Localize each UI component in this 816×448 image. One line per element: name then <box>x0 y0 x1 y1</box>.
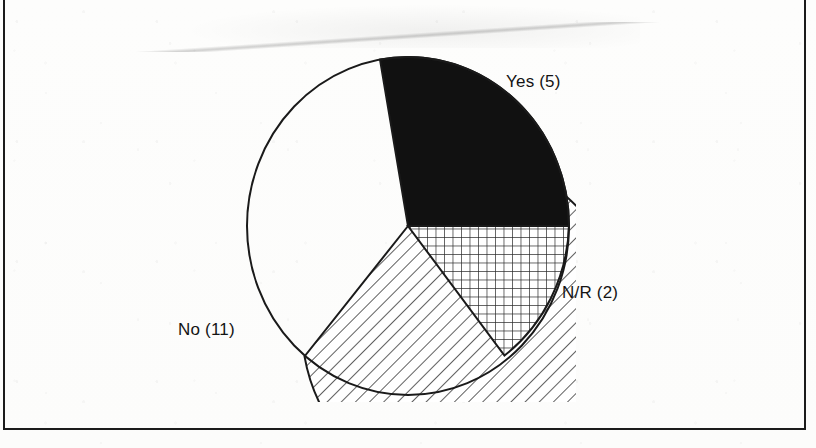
scanned-page: Yes (5) N/R (2) No (11) <box>0 0 816 448</box>
pie-chart-svg <box>240 50 576 402</box>
pie-chart <box>240 50 576 402</box>
pie-label-nr: N/R (2) <box>562 283 618 303</box>
pie-label-yes: Yes (5) <box>506 72 561 92</box>
pie-label-no: No (11) <box>178 320 235 340</box>
